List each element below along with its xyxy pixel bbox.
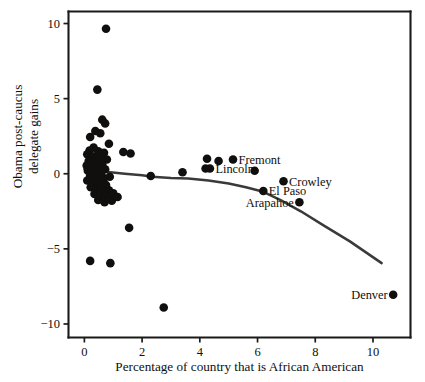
data-point (101, 119, 110, 128)
y-axis-title-line2: delegate gains (26, 99, 41, 174)
trend-line-group (84, 169, 381, 263)
data-point (105, 172, 114, 181)
data-point (178, 168, 187, 177)
data-point (113, 193, 122, 202)
y-tick-label: −10 (40, 317, 60, 331)
data-point (106, 259, 115, 268)
data-point (86, 133, 95, 142)
y-tick-label: 10 (48, 17, 61, 31)
x-tick-label: 6 (254, 345, 260, 359)
labeled-points-group: FremontLincolnCrowleyEl PasoArapahoeDenv… (206, 153, 398, 302)
chart-canvas: 1050−5−10 0246810 FremontLincolnCrowleyE… (0, 0, 425, 382)
x-axis-title: Percentage of country that is African Am… (115, 359, 364, 374)
x-tick-label: 10 (367, 345, 380, 359)
x-tick-label: 4 (197, 345, 204, 359)
data-point (105, 139, 114, 148)
data-point (119, 148, 128, 157)
data-point (203, 154, 212, 163)
x-tick-label: 2 (139, 345, 145, 359)
trend-line (84, 169, 381, 263)
axis-titles-group: Percentage of country that is African Am… (10, 85, 364, 374)
x-tick-label: 8 (312, 345, 318, 359)
data-point (159, 303, 168, 312)
data-point (86, 257, 95, 266)
y-tick-label: 5 (54, 92, 60, 106)
data-point (102, 24, 111, 33)
point-label: Lincoln (215, 162, 254, 176)
point-label: Arapahoe (246, 196, 295, 210)
point-label: Denver (351, 288, 388, 302)
data-point (100, 198, 109, 207)
data-point-labeled (295, 198, 304, 207)
y-axis-title-line1: Obama post-caucus (10, 85, 25, 189)
data-point (93, 85, 102, 94)
data-point (146, 172, 155, 181)
data-point-labeled (206, 164, 215, 173)
data-point (126, 149, 135, 158)
y-tick-label: 0 (54, 167, 60, 181)
scatter-plot-figure: 1050−5−10 0246810 FremontLincolnCrowleyE… (0, 0, 425, 382)
data-point (96, 129, 105, 138)
y-tick-label: −5 (47, 242, 60, 256)
data-point-labeled (259, 187, 268, 196)
data-point-labeled (389, 290, 398, 299)
data-point (125, 224, 134, 233)
x-tick-label: 0 (81, 345, 87, 359)
